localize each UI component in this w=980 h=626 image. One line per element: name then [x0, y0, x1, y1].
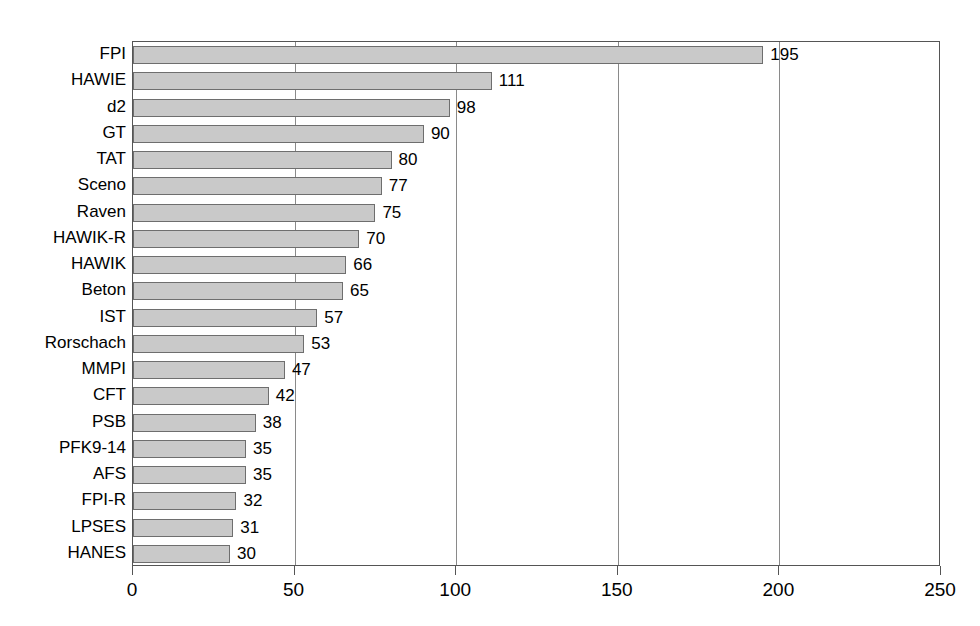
bar-value-label: 195 — [763, 45, 798, 65]
bar-value-label: 75 — [375, 203, 401, 223]
x-axis-tick-label: 250 — [924, 579, 956, 601]
bar-value-label: 111 — [492, 71, 525, 91]
bar — [133, 414, 256, 432]
bar — [133, 282, 343, 300]
bar — [133, 519, 233, 537]
bar-value-label: 32 — [236, 491, 262, 511]
category-axis-labels: FPIHAWIEd2GTTATScenoRavenHAWIK-RHAWIKBet… — [0, 41, 126, 566]
bar-row: 65 — [133, 278, 939, 304]
category-label: PFK9-14 — [0, 435, 126, 461]
category-label: HAWIK-R — [0, 225, 126, 251]
x-axis-tick — [617, 566, 618, 575]
bar-row: 38 — [133, 410, 939, 436]
bar-row: 111 — [133, 68, 939, 94]
x-axis: 050100150200250 — [132, 566, 940, 626]
bar — [133, 256, 346, 274]
category-label: CFT — [0, 382, 126, 408]
bar-row: 32 — [133, 488, 939, 514]
bar-row: 35 — [133, 462, 939, 488]
bar — [133, 46, 763, 64]
category-label: MMPI — [0, 356, 126, 382]
x-axis-tick-label: 200 — [763, 579, 795, 601]
category-label: GT — [0, 120, 126, 146]
bar-value-label: 35 — [246, 465, 272, 485]
category-label: Beton — [0, 277, 126, 303]
category-label: FPI — [0, 41, 126, 67]
bar-row: 42 — [133, 383, 939, 409]
bar — [133, 361, 285, 379]
x-axis-tick-label: 50 — [283, 579, 304, 601]
x-axis-tick-label: 0 — [127, 579, 138, 601]
bar-row: 31 — [133, 515, 939, 541]
category-label: IST — [0, 304, 126, 330]
category-label: Rorschach — [0, 330, 126, 356]
x-axis-tick — [132, 566, 133, 575]
bar-row: 195 — [133, 42, 939, 68]
bar-value-label: 77 — [382, 176, 408, 196]
category-label: d2 — [0, 94, 126, 120]
bar — [133, 492, 236, 510]
bar-value-label: 30 — [230, 544, 256, 564]
bar — [133, 204, 375, 222]
bar-row: 57 — [133, 305, 939, 331]
x-axis-tick — [778, 566, 779, 575]
bar-value-label: 42 — [269, 386, 295, 406]
category-label: HAWIK — [0, 251, 126, 277]
bar-value-label: 38 — [256, 413, 282, 433]
bar — [133, 151, 392, 169]
bar-value-label: 65 — [343, 281, 369, 301]
bar-value-label: 70 — [359, 229, 385, 249]
bar-row: 35 — [133, 436, 939, 462]
bar-value-label: 57 — [317, 308, 343, 328]
bar-row: 77 — [133, 173, 939, 199]
category-label: Raven — [0, 199, 126, 225]
category-label: TAT — [0, 146, 126, 172]
x-axis-tick — [294, 566, 295, 575]
bar-row: 90 — [133, 121, 939, 147]
plot-area: 1951119890807775706665575347423835353231… — [132, 41, 940, 566]
bar-row: 53 — [133, 331, 939, 357]
bar-value-label: 66 — [346, 255, 372, 275]
bar-value-label: 35 — [246, 439, 272, 459]
category-label: FPI-R — [0, 487, 126, 513]
bar — [133, 230, 359, 248]
category-label: PSB — [0, 409, 126, 435]
bar-value-label: 31 — [233, 518, 259, 538]
bar-value-label: 80 — [392, 150, 418, 170]
category-label: AFS — [0, 461, 126, 487]
bar-value-label: 53 — [304, 334, 330, 354]
x-axis-tick-label: 150 — [601, 579, 633, 601]
bar-row: 66 — [133, 252, 939, 278]
bar-chart: 1951119890807775706665575347423835353231… — [0, 0, 980, 626]
bar — [133, 125, 424, 143]
category-label: HAWIE — [0, 67, 126, 93]
bar — [133, 387, 269, 405]
bar — [133, 335, 304, 353]
x-axis-tick — [940, 566, 941, 575]
bar-value-label: 47 — [285, 360, 311, 380]
bar — [133, 177, 382, 195]
x-axis-tick — [455, 566, 456, 575]
bar-value-label: 90 — [424, 124, 450, 144]
bar — [133, 309, 317, 327]
bar — [133, 99, 450, 117]
category-label: Sceno — [0, 172, 126, 198]
bar-row: 75 — [133, 200, 939, 226]
bar — [133, 545, 230, 563]
x-axis-tick-label: 100 — [439, 579, 471, 601]
bar — [133, 440, 246, 458]
category-label: LPSES — [0, 514, 126, 540]
bar-row: 47 — [133, 357, 939, 383]
bar-row: 80 — [133, 147, 939, 173]
bar-value-label: 98 — [450, 98, 476, 118]
bar-row: 30 — [133, 541, 939, 567]
bar-row: 70 — [133, 226, 939, 252]
category-label: HANES — [0, 540, 126, 566]
bar — [133, 466, 246, 484]
bar-row: 98 — [133, 95, 939, 121]
bar — [133, 72, 492, 90]
